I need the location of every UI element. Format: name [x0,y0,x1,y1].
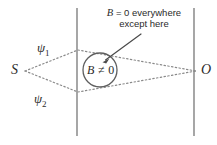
psi2-subscript: 2 [42,99,47,109]
label-psi-1: ψ1 [37,41,50,58]
label-field-nonzero: B ≠ 0 [87,64,114,76]
aharonov-bohm-figure: B = 0 everywhereexcept here S O ψ1 ψ2 B … [0,0,217,145]
psi1-subscript: 1 [45,48,50,58]
annotation-arrow-shaft [106,34,142,60]
field-relation: ≠ 0 [95,63,115,77]
psi1-symbol: ψ [37,40,45,55]
caption-line1-rest: = 0 everywhere [113,7,181,18]
label-observation-O: O [201,63,211,77]
caption-line2: except here [119,18,169,29]
field-annotation-caption: B = 0 everywhereexcept here [98,7,190,29]
field-symbol-B: B [87,63,95,77]
psi2-symbol: ψ [34,91,42,106]
label-psi-2: ψ2 [34,92,47,109]
label-source-S: S [11,63,18,77]
